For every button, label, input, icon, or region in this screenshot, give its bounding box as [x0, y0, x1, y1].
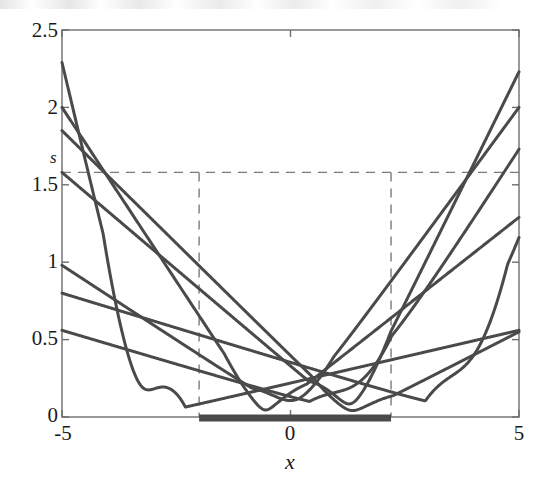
data-curves [62, 63, 519, 411]
x-tick-label-neg5: -5 [42, 421, 84, 446]
y-tick-label-1.5: 1.5 [14, 172, 58, 197]
plot-area [0, 0, 535, 486]
y-tick-label-2: 2 [14, 95, 58, 120]
x-axis-title: x [270, 449, 310, 475]
y-tick-label-2.5: 2.5 [14, 18, 58, 43]
y-tick-label-1: 1 [14, 249, 58, 274]
y-tick-label-0.5: 0.5 [14, 326, 58, 351]
x-tick-label-0: 0 [269, 421, 311, 446]
x-tick-label-5: 5 [498, 421, 535, 446]
s-level-label: s [50, 148, 57, 168]
chart-figure: 2.5 2 1.5 1 0.5 0 s -5 0 5 x [0, 0, 535, 486]
curve-6 [62, 237, 519, 400]
